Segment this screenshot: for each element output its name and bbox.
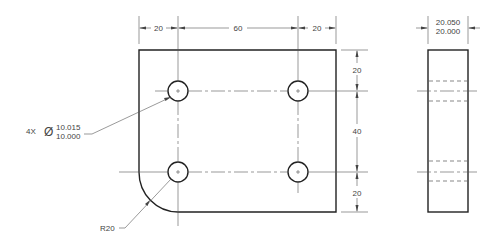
hole-callout: 4X Ø 10.015 10.000 [26,97,171,141]
diameter-symbol: Ø [44,125,53,139]
radius-leader-line [119,179,171,228]
technical-drawing: 20 60 20 20 40 [0,0,504,242]
side-arrow-right [468,27,475,30]
dim-horizontal: 20 60 20 [139,24,336,33]
dim-middle-60: 60 [234,24,243,33]
dim-top-20: 20 [353,66,362,75]
hole-leader-arrow [164,97,171,101]
side-view: 20.050 20.000 [416,16,480,212]
thickness-lower-limit: 20.000 [436,27,461,36]
dim-left-20: 20 [154,24,163,33]
radius-callout: R20 [100,179,171,233]
center-marks [176,89,300,174]
hole-quantity: 4X [26,127,36,136]
side-outline [428,50,468,212]
hole-leader-line [84,97,171,134]
front-view: 20 60 20 20 40 [26,16,368,233]
part-outline [139,50,336,212]
radius-label: R20 [100,224,115,233]
dim-bottom-20: 20 [353,189,362,198]
thickness-upper-limit: 20.050 [436,18,461,27]
dim-vertical: 20 40 20 [353,50,362,212]
hole-lower-limit: 10.000 [56,132,81,141]
dim-right-20: 20 [313,24,322,33]
side-arrow-left [421,27,428,30]
radius-leader-arrow [145,200,150,206]
dim-middle-40: 40 [353,127,362,136]
hole-upper-limit: 10.015 [56,123,81,132]
